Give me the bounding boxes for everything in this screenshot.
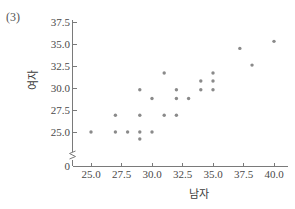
- data-point: [138, 130, 141, 133]
- data-point: [138, 88, 141, 91]
- data-point: [138, 137, 141, 140]
- data-point: [187, 97, 190, 100]
- x-tick-label: 37.5: [234, 168, 254, 180]
- x-axis-label: 남자: [189, 188, 209, 200]
- x-tick-group: [91, 163, 274, 167]
- data-point: [250, 63, 253, 66]
- data-point: [211, 88, 214, 91]
- x-axis: 25.027.530.032.535.037.540.0: [73, 163, 289, 181]
- x-tick-label: 40.0: [264, 168, 284, 180]
- x-tick-label: 27.5: [112, 168, 132, 180]
- data-point: [89, 130, 92, 133]
- x-tick-label: 35.0: [203, 168, 223, 180]
- data-point: [211, 71, 214, 74]
- y-tick-label: 0: [65, 160, 71, 172]
- y-tick-label: 27.5: [51, 104, 71, 116]
- data-point: [175, 114, 178, 117]
- y-axis-label: 여자: [27, 70, 39, 90]
- x-tick-label: 32.5: [173, 168, 193, 180]
- data-point: [114, 114, 117, 117]
- data-point: [238, 47, 241, 50]
- scatter-plot-figure: (3) 025.027.530.032.535.037.5 25.027.530…: [0, 0, 295, 209]
- axis-break-icon: [70, 151, 76, 159]
- y-tick-label: 35.0: [51, 38, 71, 50]
- data-point: [272, 40, 275, 43]
- data-point: [211, 79, 214, 82]
- data-point: [138, 114, 141, 117]
- data-point: [175, 88, 178, 91]
- x-tick-label: 30.0: [142, 168, 162, 180]
- data-point-group: [89, 40, 275, 141]
- data-point: [150, 97, 153, 100]
- data-point: [199, 88, 202, 91]
- y-tick-label: 30.0: [51, 82, 71, 94]
- y-tick-label: 25.0: [51, 126, 71, 138]
- y-tick-label: 37.5: [51, 16, 71, 28]
- y-tick-label-group: 025.027.530.032.535.037.5: [51, 16, 71, 173]
- data-point: [114, 130, 117, 133]
- data-point: [163, 114, 166, 117]
- x-tick-label-group: 25.027.530.032.535.037.540.0: [81, 168, 284, 180]
- x-tick-label: 25.0: [81, 168, 101, 180]
- y-tick-group: [73, 22, 77, 132]
- y-tick-label: 32.5: [51, 60, 71, 72]
- data-point: [163, 71, 166, 74]
- data-point: [175, 97, 178, 100]
- y-axis: 025.027.530.032.535.037.5: [51, 16, 77, 173]
- data-point: [126, 130, 129, 133]
- scatter-plot-canvas: 025.027.530.032.535.037.5 25.027.530.032…: [0, 0, 295, 209]
- data-point: [199, 79, 202, 82]
- data-point: [150, 130, 153, 133]
